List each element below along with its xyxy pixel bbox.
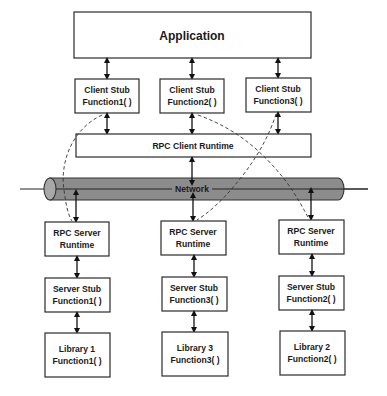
rpc-server-runtime-3: RPC Server Runtime [279, 220, 344, 254]
server-runtime-3-line2: Runtime [294, 238, 329, 248]
server-runtime-2-line2: Runtime [176, 239, 211, 249]
client-stub-2-line1: Client Stub [169, 85, 214, 95]
rpc-client-runtime-label: RPC Client Runtime [152, 141, 233, 151]
server-stub-3: Server Stub Function2( ) [279, 276, 344, 310]
library-1: Library 1 Function1( ) [45, 333, 110, 377]
client-stub-1-line1: Client Stub [84, 85, 129, 95]
library-1-line2: Function1( ) [52, 356, 101, 366]
network-tube: Network [20, 178, 368, 200]
server-stub-2-line2: Function3( ) [169, 295, 218, 305]
client-stub-3: Client Stub Function3( ) [246, 78, 311, 112]
client-stub-3-line2: Function3( ) [253, 96, 302, 106]
server-runtime-2-line1: RPC Server [169, 227, 217, 237]
server-stub-2: Server Stub Function3( ) [162, 277, 227, 311]
network-label: Network [175, 184, 209, 194]
server-stub-2-line1: Server Stub [170, 283, 218, 293]
dashed-path-func1 [63, 115, 102, 221]
server-runtime-3-line1: RPC Server [287, 226, 335, 236]
server-stub-1: Server Stub Function1( ) [45, 278, 110, 312]
server-stub-1-line2: Function1( ) [52, 296, 101, 306]
library-3-line1: Library 3 [177, 343, 214, 353]
rpc-diagram: Application Client Stub Function1( ) Cli… [0, 0, 387, 396]
library-3-line2: Function3( ) [170, 355, 219, 365]
library-2-line1: Library 2 [294, 342, 331, 352]
library-2: Library 2 Function2( ) [280, 331, 345, 375]
client-stub-3-line1: Client Stub [255, 84, 300, 94]
client-stub-2-line2: Function2( ) [167, 97, 216, 107]
client-stub-2: Client Stub Function2( ) [160, 79, 224, 113]
rpc-server-runtime-1: RPC Server Runtime [45, 222, 109, 256]
client-stub-1-line2: Function1( ) [82, 97, 131, 107]
server-stub-1-line1: Server Stub [53, 284, 101, 294]
rpc-server-runtime-2: RPC Server Runtime [161, 221, 226, 255]
server-stub-3-line2: Function2( ) [286, 294, 335, 304]
server-runtime-1-line2: Runtime [60, 240, 95, 250]
client-stub-1: Client Stub Function1( ) [75, 79, 139, 113]
dashed-path-func3 [197, 114, 276, 220]
dashed-path-func2 [198, 115, 309, 219]
server-runtime-1-line1: RPC Server [53, 228, 101, 238]
application-box: Application [74, 12, 311, 58]
server-stub-3-line1: Server Stub [287, 282, 335, 292]
rpc-client-runtime-box: RPC Client Runtime [76, 134, 311, 157]
library-3: Library 3 Function3( ) [162, 332, 228, 376]
application-label: Application [159, 29, 224, 43]
library-1-line1: Library 1 [59, 344, 96, 354]
library-2-line2: Function2( ) [287, 354, 336, 364]
